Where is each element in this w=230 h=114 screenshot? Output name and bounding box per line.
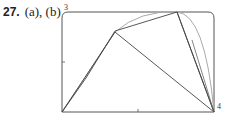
polygon-a xyxy=(62,32,214,112)
segment-inner xyxy=(192,40,214,112)
figure-plot xyxy=(0,0,230,114)
polygon-b xyxy=(62,12,214,112)
curve xyxy=(62,12,214,112)
frame xyxy=(62,12,214,112)
